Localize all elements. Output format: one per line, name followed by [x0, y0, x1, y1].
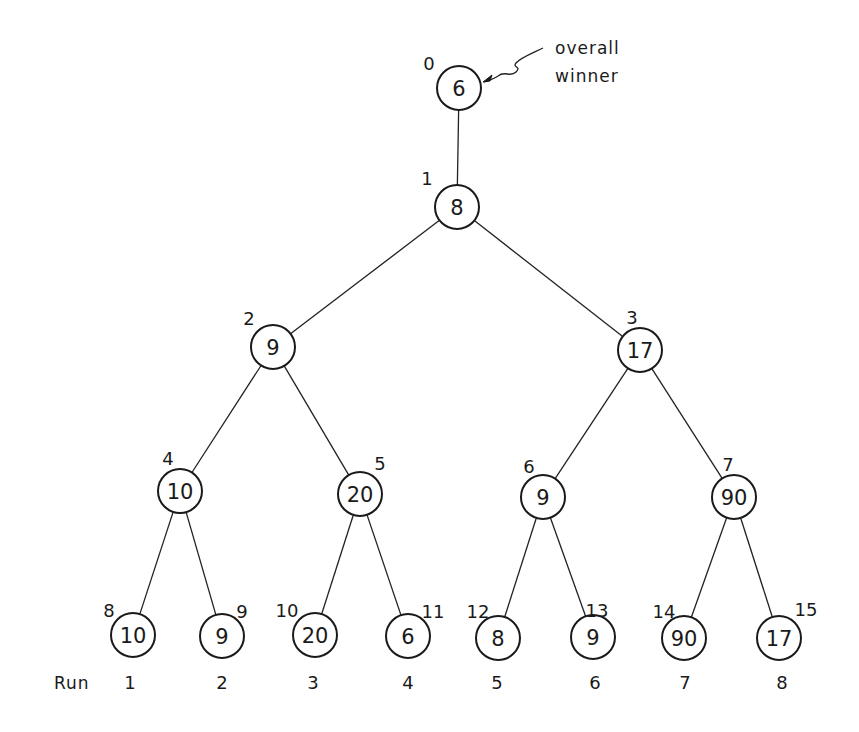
tree-node: 812 [467, 601, 520, 660]
node-index: 15 [795, 599, 818, 620]
node-value: 10 [167, 480, 194, 504]
run-labels: Run 12345678 [54, 672, 788, 693]
node-index: 8 [103, 600, 114, 621]
node-index: 1 [421, 168, 432, 189]
node-value: 8 [450, 196, 463, 220]
tree-nodes: 6081921731042059690710899201061181291390… [103, 53, 817, 660]
tree-node: 92 [243, 308, 295, 369]
tree-node: 9014 [653, 601, 706, 660]
node-value: 20 [302, 624, 329, 648]
overall-winner-annotation: overall winner [483, 38, 620, 86]
run-number: 3 [307, 672, 318, 693]
tree-edge [741, 518, 773, 617]
tree-node: 1715 [757, 599, 817, 660]
node-value: 9 [536, 486, 549, 510]
node-index: 11 [422, 601, 445, 622]
node-index: 6 [523, 456, 534, 477]
tree-node: 913 [571, 600, 615, 659]
run-number: 7 [679, 672, 690, 693]
tree-edge [140, 512, 173, 614]
node-index: 4 [162, 448, 173, 469]
tree-edge [555, 368, 628, 478]
run-number: 2 [216, 672, 227, 693]
tree-node: 907 [712, 454, 756, 519]
node-index: 10 [276, 600, 299, 621]
node-index: 0 [423, 53, 434, 74]
node-value: 20 [347, 483, 374, 507]
node-value: 17 [627, 339, 654, 363]
tree-node: 99 [200, 601, 248, 658]
run-number: 8 [776, 672, 787, 693]
tree-node: 60 [423, 53, 481, 110]
node-index: 2 [243, 308, 254, 329]
squiggle-arrow-icon [484, 48, 543, 82]
run-number: 6 [589, 672, 600, 693]
tree-edge [367, 515, 401, 615]
tree-node: 205 [338, 453, 386, 516]
node-value: 10 [120, 624, 147, 648]
tree-node: 2010 [276, 600, 337, 657]
run-number: 1 [124, 672, 135, 693]
tree-edge [457, 110, 458, 185]
tree-node: 96 [521, 456, 565, 519]
node-index: 13 [586, 600, 609, 621]
node-value: 9 [215, 625, 228, 649]
tree-node: 81 [421, 168, 479, 229]
tree-edge [691, 518, 726, 618]
node-index: 14 [653, 601, 676, 622]
tree-edge [192, 365, 261, 472]
node-index: 7 [722, 454, 733, 475]
node-value: 9 [586, 626, 599, 650]
node-value: 6 [452, 77, 465, 101]
tree-edge [550, 518, 585, 617]
tree-node: 611 [386, 601, 444, 658]
node-index: 12 [467, 601, 490, 622]
node-value: 90 [671, 627, 698, 651]
node-value: 17 [766, 627, 793, 651]
node-index: 3 [626, 307, 637, 328]
node-index: 9 [236, 601, 247, 622]
tree-edge [322, 515, 354, 614]
node-value: 9 [266, 336, 279, 360]
tree-edge [505, 518, 537, 617]
tree-node: 104 [158, 448, 202, 513]
tree-edge [291, 220, 440, 333]
tree-node: 108 [103, 600, 155, 657]
annotation-line-1: overall [555, 38, 620, 58]
annotation-line-2: winner [555, 66, 619, 86]
tree-edge [652, 369, 722, 479]
run-number: 4 [402, 672, 413, 693]
tree-edge [284, 366, 349, 475]
node-value: 8 [491, 627, 504, 651]
node-value: 6 [401, 625, 414, 649]
node-index: 5 [374, 453, 385, 474]
tournament-tree-diagram: 6081921731042059690710899201061181291390… [0, 0, 859, 732]
tree-edge [474, 221, 622, 337]
tree-node: 173 [618, 307, 662, 372]
arrowhead-icon [483, 75, 492, 82]
run-axis-label: Run [54, 673, 90, 693]
tree-edge [186, 512, 216, 615]
run-number: 5 [491, 672, 502, 693]
node-value: 90 [721, 486, 748, 510]
